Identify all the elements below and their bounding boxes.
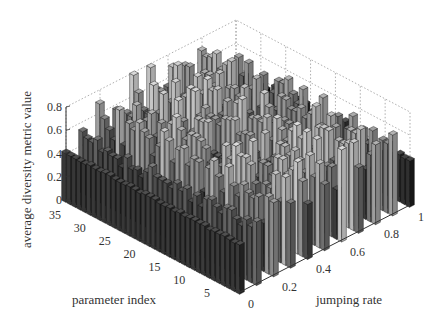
x-tick-label: 1 xyxy=(418,210,424,224)
y-axis-label: parameter index xyxy=(72,292,157,307)
z-axis-label: average diversity metric value xyxy=(19,91,34,248)
z-tick-label: 0 xyxy=(56,193,62,207)
y-tick-label: 10 xyxy=(173,273,185,287)
y-tick-label: 30 xyxy=(74,221,86,235)
x-tick-label: 0 xyxy=(248,297,254,311)
x-tick-label: 0.4 xyxy=(316,262,331,276)
y-tick-label: 35 xyxy=(49,208,61,222)
z-tick-label: 0.4 xyxy=(47,147,62,161)
y-tick-label: 25 xyxy=(99,234,111,248)
z-tick-label: 0.6 xyxy=(47,123,62,137)
y-tick-label: 15 xyxy=(148,260,160,274)
x-tick-label: 0.6 xyxy=(350,245,365,259)
y-tick-label: 5 xyxy=(204,286,210,300)
x-axis-label: jumping rate xyxy=(315,292,382,307)
x-tick-label: 0.8 xyxy=(384,227,399,241)
z-tick-label: 0.8 xyxy=(47,100,62,114)
bar3d-chart: 00.20.40.60.8510152025303500.20.40.60.81… xyxy=(0,0,433,334)
z-tick-label: 0.2 xyxy=(47,170,62,184)
y-tick-label: 20 xyxy=(124,247,136,261)
x-tick-label: 0.2 xyxy=(282,280,297,294)
